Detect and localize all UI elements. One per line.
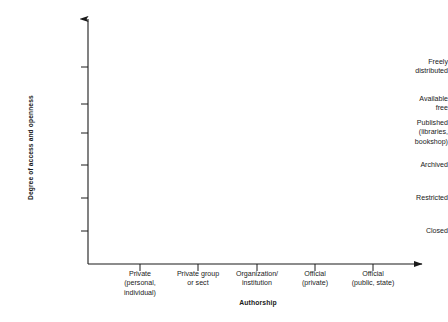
y-tick-label-closed: Closed xyxy=(370,227,448,236)
y-tick-marks xyxy=(81,67,88,231)
y-axis-title: Degree of access and openness xyxy=(24,10,38,200)
chart-figure: Degree of access and openness Freely dis… xyxy=(0,0,448,322)
x-tick-label-official-public-state: Official (public, state) xyxy=(313,270,433,289)
x-axis-title: Authorship xyxy=(178,299,338,306)
y-tick-label-restricted: Restricted xyxy=(370,194,448,203)
y-tick-label-archived: Archived xyxy=(370,161,448,170)
y-tick-label-published: Published (libraries, bookshop) xyxy=(370,119,448,147)
y-tick-label-freely-distributed: Freely distributed xyxy=(370,58,448,77)
y-tick-label-available-free: Available free xyxy=(370,95,448,114)
